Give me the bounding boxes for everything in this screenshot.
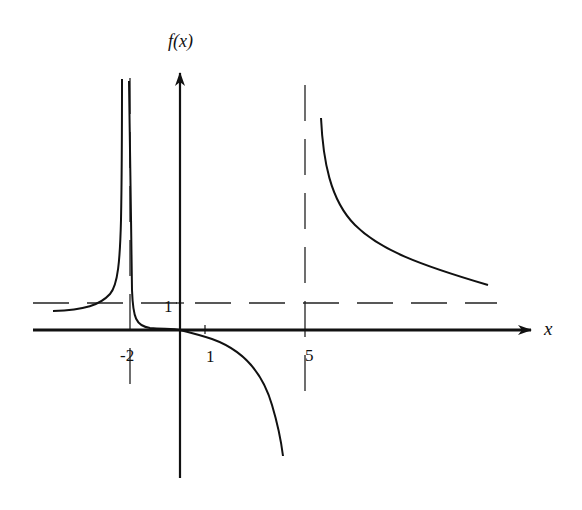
tick-label-x-1: 1 xyxy=(206,347,215,366)
function-graph: f(x) x -2 1 5 1 xyxy=(0,0,582,510)
curve-branch-middle xyxy=(129,81,283,456)
tick-label-x-5: 5 xyxy=(305,346,314,365)
y-axis-label: f(x) xyxy=(168,31,193,52)
tick-label-y-1: 1 xyxy=(164,297,173,316)
curve-branch-right xyxy=(321,118,488,285)
tick-label-x-minus2: -2 xyxy=(120,346,134,365)
curve-branch-left xyxy=(53,79,122,311)
x-axis-label: x xyxy=(543,318,553,339)
